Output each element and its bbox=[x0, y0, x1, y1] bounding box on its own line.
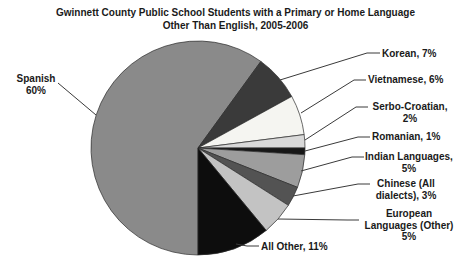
label-romanian: Romanian, 1% bbox=[372, 131, 440, 143]
label-european-languages-line1: European bbox=[354, 208, 464, 220]
label-vietnamese-line1: Vietnamese, 6% bbox=[368, 74, 443, 86]
label-spanish: Spanish 60% bbox=[4, 73, 68, 96]
label-chinese-line1: Chinese (All bbox=[356, 178, 456, 190]
pie-chart-figure: Gwinnett County Public School Students w… bbox=[0, 0, 471, 269]
label-korean-line1: Korean, 7% bbox=[382, 48, 436, 60]
label-chinese-line2: dialects), 3% bbox=[356, 190, 456, 202]
leader-line-european bbox=[278, 219, 359, 220]
label-romanian-line1: Romanian, 1% bbox=[372, 131, 440, 143]
leader-line-korean bbox=[280, 53, 380, 80]
label-european-languages: European Languages (Other) 5% bbox=[354, 208, 464, 243]
label-european-languages-line3: 5% bbox=[354, 231, 464, 243]
label-serbo-croatian-line1: Serbo-Croatian, bbox=[360, 101, 460, 113]
label-vietnamese: Vietnamese, 6% bbox=[368, 74, 443, 86]
label-chinese: Chinese (All dialects), 3% bbox=[356, 178, 456, 201]
pie-slices-group bbox=[91, 41, 305, 255]
leader-line-romanian bbox=[305, 137, 370, 151]
label-all-other: All Other, 11% bbox=[261, 241, 328, 253]
label-serbo-croatian: Serbo-Croatian, 2% bbox=[360, 101, 460, 124]
label-european-languages-line2: Languages (Other) bbox=[354, 220, 464, 232]
leader-line-vietnamese bbox=[301, 80, 366, 113]
label-indian-languages-line2: 5% bbox=[354, 163, 464, 175]
label-all-other-line1: All Other, 11% bbox=[261, 241, 328, 253]
label-korean: Korean, 7% bbox=[382, 48, 436, 60]
label-serbo-croatian-line2: 2% bbox=[360, 113, 460, 125]
label-indian-languages-line1: Indian Languages, bbox=[354, 151, 464, 163]
label-spanish-line2: 60% bbox=[4, 85, 68, 97]
leader-line-serbo-croatian bbox=[305, 107, 368, 140]
label-indian-languages: Indian Languages, 5% bbox=[354, 151, 464, 174]
label-spanish-line1: Spanish bbox=[4, 73, 68, 85]
